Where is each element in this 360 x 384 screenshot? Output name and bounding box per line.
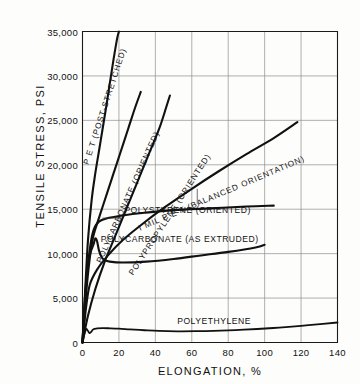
- curve-label-polycarbonate-as-extruded: POLYCARBONATE (AS EXTRUDED): [101, 234, 259, 244]
- curve-label-polyethylene: POLYETHYLENE: [177, 316, 251, 326]
- plot-frame: [83, 32, 338, 343]
- curve-label-polystyrene-oriented: POLYSTYRENE (ORIENTED): [124, 205, 250, 215]
- tensile-stress-elongation-chart: TENSILE STRESS, PSI ELONGATION, % 35,000…: [0, 0, 360, 384]
- gridlines: [83, 32, 338, 343]
- data-curves: [83, 32, 338, 343]
